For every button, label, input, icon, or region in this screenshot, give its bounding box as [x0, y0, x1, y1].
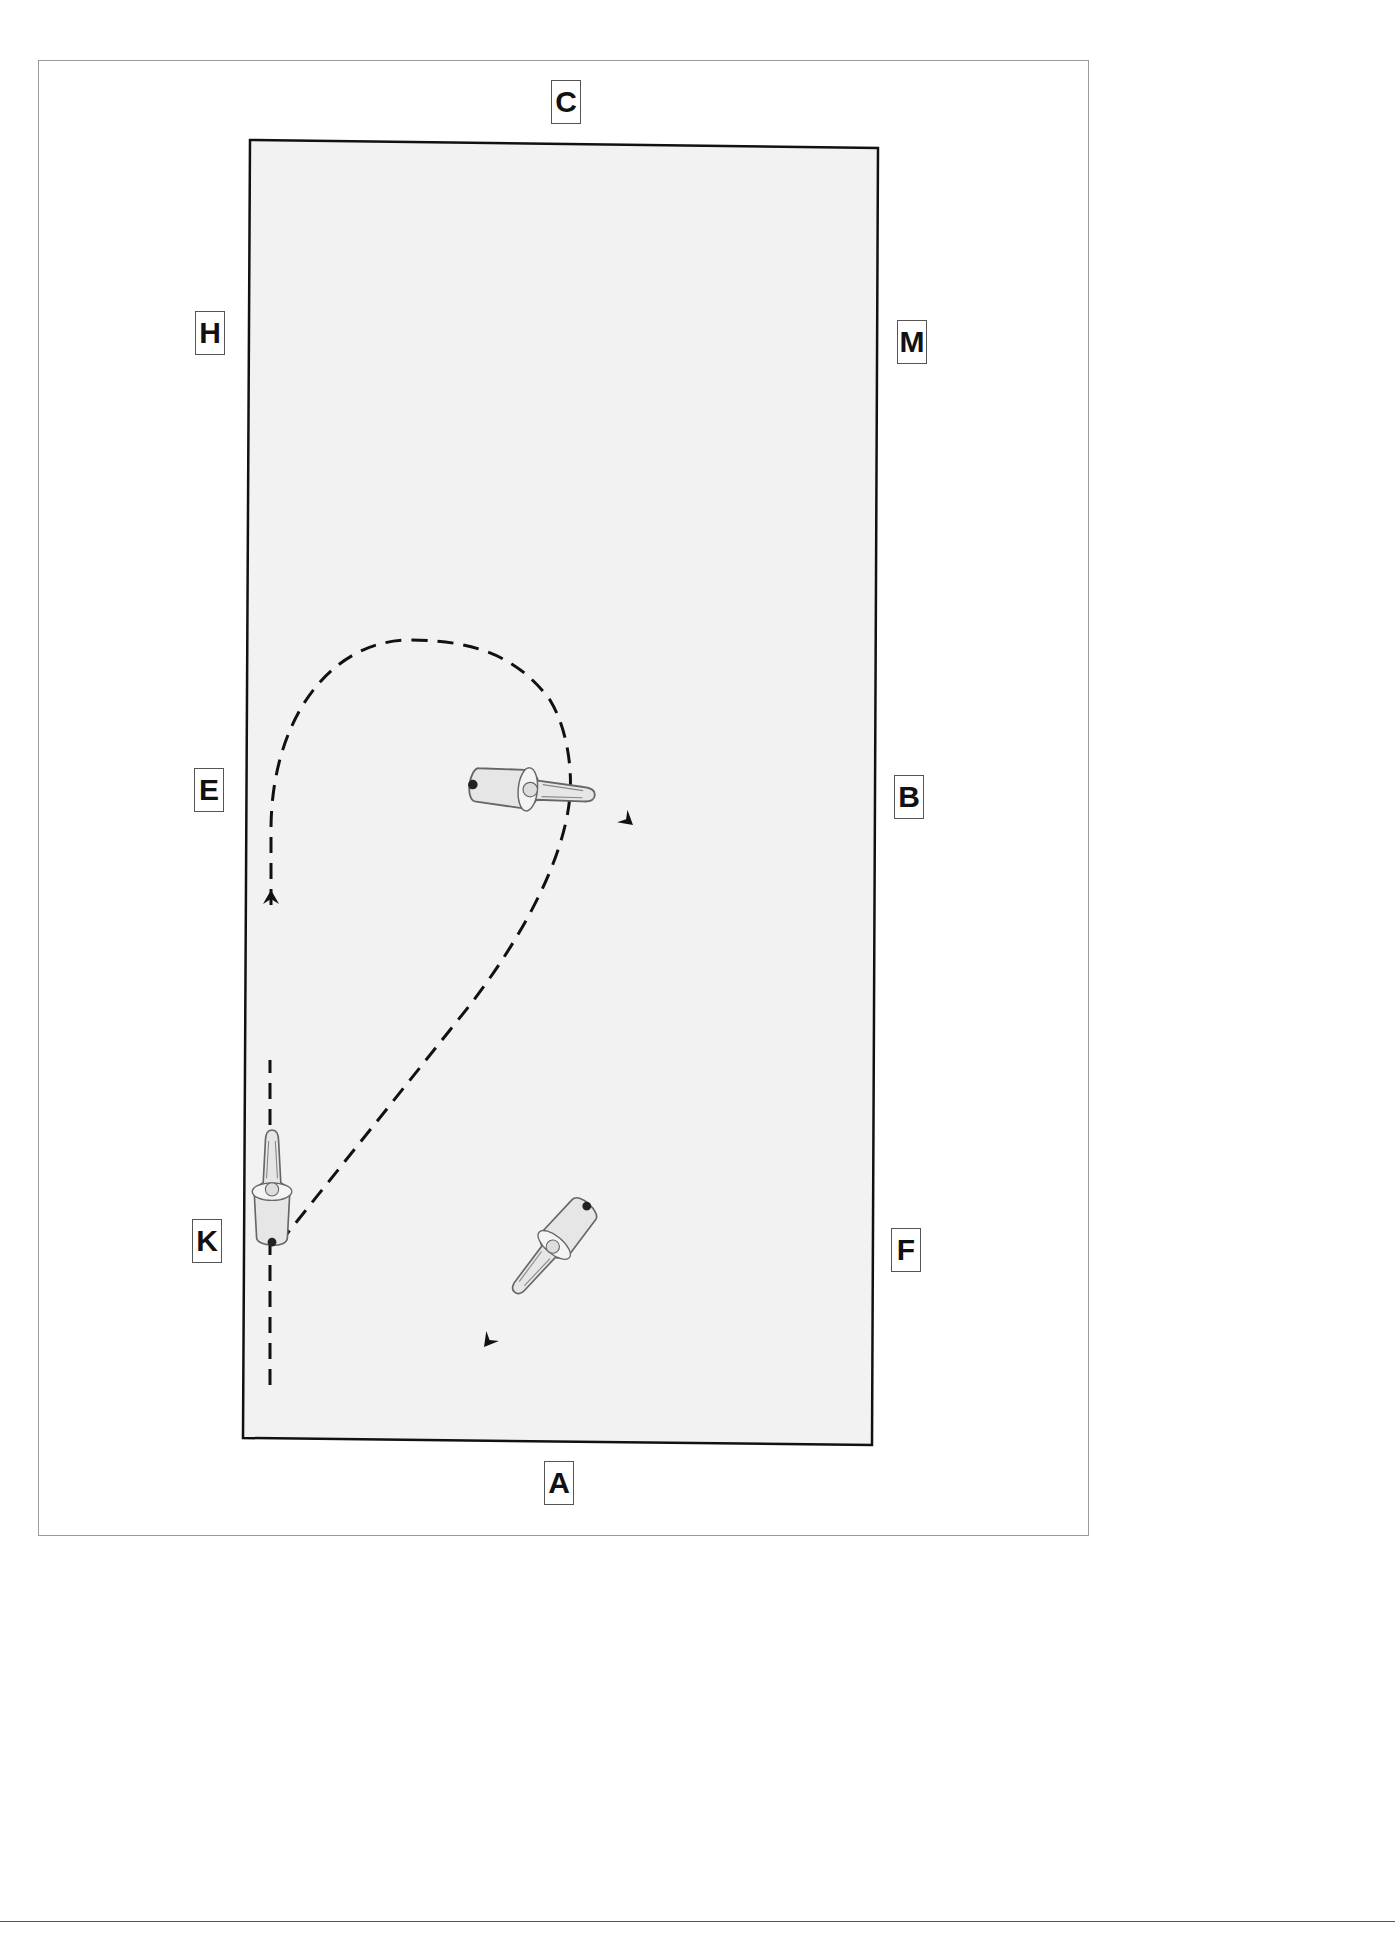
- marker-a: A: [544, 1461, 574, 1505]
- marker-c: C: [551, 80, 581, 124]
- marker-h: H: [195, 311, 225, 355]
- marker-k: K: [192, 1219, 222, 1263]
- marker-f: F: [891, 1228, 921, 1272]
- marker-b: B: [894, 775, 924, 819]
- arena-diagram: [0, 0, 1395, 1939]
- marker-m: M: [897, 320, 927, 364]
- marker-e: E: [194, 768, 224, 812]
